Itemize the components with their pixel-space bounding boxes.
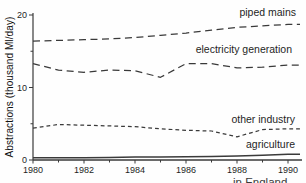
- line-chart-canvas: 01020198019821984198619881990: [0, 0, 306, 183]
- x-tick-label: 1980: [23, 165, 43, 175]
- y-tick-label: 10: [17, 83, 27, 93]
- x-tick-label: 1988: [227, 165, 247, 175]
- y-tick-label: 20: [17, 10, 27, 20]
- x-tick-label: 1984: [125, 165, 145, 175]
- series-label-other-industry: other industry: [231, 113, 295, 125]
- series-label-agriculture: agriculture: [246, 138, 295, 150]
- series-label-electricity-generation: electricity generation: [196, 43, 292, 55]
- x-tick-label: 1982: [74, 165, 94, 175]
- series-label-piped-mains: piped mains: [239, 6, 296, 18]
- x-tick-label: 1990: [278, 165, 298, 175]
- abstractions-line-chart: 01020198019821984198619881990 Abstractio…: [0, 0, 306, 183]
- series-line-agriculture: [33, 154, 300, 158]
- series-line-piped-mains: [33, 24, 300, 41]
- caption-fragment-cropped: in England: [233, 176, 287, 183]
- series-line-other-industry: [33, 125, 300, 137]
- series-line-electricity-generation: [33, 64, 300, 78]
- y-axis-title: Abstractions (thousand Ml/day): [4, 17, 15, 158]
- x-tick-label: 1986: [176, 165, 196, 175]
